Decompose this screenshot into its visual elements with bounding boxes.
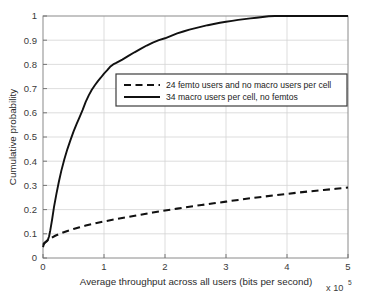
y-tick-label: 1: [32, 10, 37, 21]
x-tick-label: 3: [223, 261, 228, 272]
y-tick-label: 0.7: [24, 83, 37, 94]
x-tick-label: 1: [101, 261, 106, 272]
x-tick-label: 2: [162, 261, 167, 272]
y-tick-label: 0.8: [24, 59, 37, 70]
x-axis-title: Average throughput across all users (bit…: [80, 276, 312, 287]
y-tick-labels: 00.10.20.30.40.50.60.70.80.91: [24, 10, 37, 263]
y-tick-label: 0.3: [24, 180, 37, 191]
x-tick-label: 4: [284, 261, 289, 272]
y-tick-label: 0.4: [24, 156, 37, 167]
y-tick-label: 0.1: [24, 228, 37, 239]
y-tick-label: 0: [32, 252, 37, 263]
legend-label-femto-users: 24 femto users and no macro users per ce…: [166, 80, 331, 90]
legend: 24 femto users and no macro users per ce…: [116, 74, 347, 106]
legend-label-macro-users: 34 macro users per cell, no femtos: [166, 92, 298, 102]
x-tick-labels: 012345: [40, 261, 350, 272]
x-tick-label: 0: [40, 261, 45, 272]
y-tick-label: 0.2: [24, 204, 37, 215]
cdf-line-chart: 00.10.20.30.40.50.60.70.80.91 012345 Cum…: [0, 0, 365, 304]
y-axis-title: Cumulative probability: [7, 89, 18, 185]
x-tick-label: 5: [345, 261, 350, 272]
chart-figure: 00.10.20.30.40.50.60.70.80.91 012345 Cum…: [0, 0, 365, 304]
y-tick-label: 0.6: [24, 107, 37, 118]
y-tick-label: 0.9: [24, 35, 37, 46]
x-axis-multiplier: x 10: [326, 283, 343, 293]
x-axis-multiplier-exponent: 5: [348, 279, 352, 286]
y-tick-label: 0.5: [24, 131, 37, 142]
